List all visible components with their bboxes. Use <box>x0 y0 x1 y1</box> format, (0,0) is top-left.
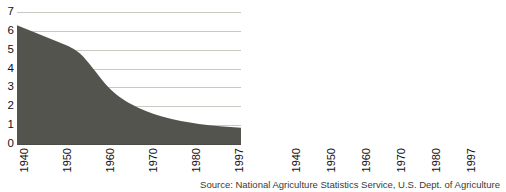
ytick-left-5: 5 <box>0 44 14 56</box>
xtick-right-1997: 1997 <box>466 148 477 172</box>
xtick-left-1950: 1950 <box>62 148 73 172</box>
chart-panel-size-of-average-farm: SIZE OF AVERAGE FARM (IN ACRES) 500 400 … <box>253 0 506 178</box>
xtick-left-1960: 1960 <box>105 148 116 172</box>
ytick-left-2: 2 <box>0 101 14 113</box>
xtick-right-1950: 1950 <box>326 148 337 172</box>
ytick-left-0: 0 <box>0 138 14 150</box>
xtick-left-1970: 1970 <box>148 148 159 172</box>
ytick-left-3: 3 <box>0 82 14 94</box>
two-chart-figure: NUMBER OF FARMS (IN MILLIONS) 7 6 5 4 3 … <box>0 0 506 192</box>
x-axis-line-left <box>17 144 241 145</box>
area-series-number-of-farms <box>17 12 241 144</box>
xtick-left-1997: 1997 <box>234 148 245 172</box>
xtick-right-1970: 1970 <box>396 148 407 172</box>
ytick-left-4: 4 <box>0 63 14 75</box>
source-note: Source: National Agriculture Statistics … <box>0 179 500 190</box>
ytick-left-7: 7 <box>0 6 14 18</box>
xtick-right-1960: 1960 <box>361 148 372 172</box>
xtick-right-1940: 1940 <box>291 148 302 172</box>
plot-area-left <box>17 12 241 144</box>
chart-panel-number-of-farms: NUMBER OF FARMS (IN MILLIONS) 7 6 5 4 3 … <box>0 0 248 178</box>
xtick-right-1980: 1980 <box>431 148 442 172</box>
xtick-left-1980: 1980 <box>191 148 202 172</box>
ytick-left-1: 1 <box>0 119 14 131</box>
ytick-left-6: 6 <box>0 25 14 37</box>
xtick-left-1940: 1940 <box>19 148 30 172</box>
